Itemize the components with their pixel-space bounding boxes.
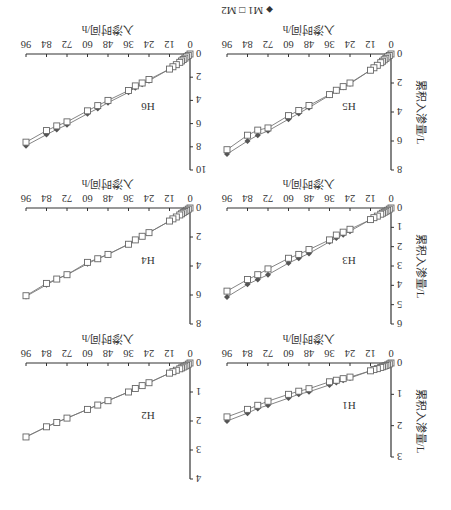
m2-point — [306, 386, 312, 392]
y-tick-label: 1 — [397, 221, 402, 232]
m2-point — [64, 272, 70, 278]
y-tick-label: 2 — [196, 71, 201, 82]
m2-point — [64, 415, 70, 421]
x-tick-label: 60 — [82, 193, 93, 204]
x-tick-label: 84 — [41, 348, 52, 359]
m2-point — [146, 77, 152, 83]
m2-point — [347, 80, 353, 86]
m2-point — [340, 84, 346, 90]
m2-point — [368, 368, 374, 374]
y-tick-label: 0 — [397, 357, 402, 368]
x-tick-label: 0 — [187, 348, 192, 359]
x-tick-label: 96 — [21, 348, 32, 359]
y-tick-label: 6 — [196, 118, 201, 129]
x-tick-label: 84 — [41, 39, 52, 50]
y-tick-label: 5 — [397, 299, 402, 310]
m2-point — [167, 66, 173, 72]
y-tick-label: 2 — [397, 77, 402, 88]
m2-point — [139, 233, 145, 239]
x-tick-label: 84 — [242, 348, 253, 359]
panel-h2: 0122436486072849601234入渗时间/hH2 — [21, 333, 202, 484]
m2-point — [23, 434, 29, 440]
x-tick-label: 12 — [365, 348, 376, 359]
m2-point — [306, 247, 312, 253]
x-tick-label: 0 — [388, 348, 393, 359]
y-tick-label: 3 — [397, 260, 402, 271]
m2-point — [255, 272, 261, 278]
m2-point — [347, 374, 353, 380]
x-tick-label: 24 — [143, 348, 154, 359]
m2-point — [23, 139, 29, 145]
m2-point — [54, 276, 60, 282]
chart-grid: 012243648607284960123入渗时间/h累积入渗量/LH10122… — [0, 0, 451, 510]
m2-point — [296, 388, 302, 394]
y-tick-label: 0 — [196, 202, 201, 213]
x-tick-label: 36 — [324, 193, 335, 204]
m2-point — [105, 398, 111, 404]
m2-point — [132, 83, 138, 89]
m1-point — [224, 294, 230, 300]
m2-point — [54, 123, 60, 129]
x-tick-label: 12 — [164, 39, 175, 50]
m2-point — [224, 147, 230, 153]
m2-point — [286, 391, 292, 397]
m2-point — [146, 380, 152, 386]
y-axis-label: 累积入渗量/L — [415, 80, 428, 145]
m2-marker-icon: □ — [239, 5, 245, 16]
x-axis-label: 入渗时间/h — [282, 178, 335, 191]
x-tick-label: 96 — [222, 39, 233, 50]
m2-point — [85, 259, 91, 265]
m2-point — [347, 226, 353, 232]
x-tick-label: 84 — [41, 193, 52, 204]
panel-h1: 012243648607284960123入渗时间/h累积入渗量/LH1 — [222, 333, 428, 462]
x-tick-label: 36 — [123, 39, 134, 50]
x-axis-label: 入渗时间/h — [282, 333, 335, 346]
m2-point — [44, 424, 50, 430]
m2-point — [296, 251, 302, 257]
m2-point — [85, 108, 91, 114]
x-axis-label: 入渗时间/h — [81, 178, 134, 191]
panel-title: H6 — [141, 101, 155, 113]
x-tick-label: 60 — [82, 348, 93, 359]
x-axis-label: 入渗时间/h — [81, 333, 134, 346]
x-tick-label: 24 — [344, 348, 355, 359]
x-tick-label: 24 — [143, 39, 154, 50]
x-tick-label: 60 — [283, 193, 294, 204]
m2-point — [327, 379, 333, 385]
m2-point — [327, 237, 333, 243]
m2-point — [132, 386, 138, 392]
x-tick-label: 72 — [62, 193, 73, 204]
x-axis-label: 入渗时间/h — [81, 24, 134, 37]
x-tick-label: 60 — [82, 39, 93, 50]
m2-point — [139, 383, 145, 389]
y-tick-label: 6 — [196, 289, 201, 300]
panel-title: H2 — [141, 410, 154, 422]
x-tick-label: 96 — [222, 348, 233, 359]
y-tick-label: 0 — [397, 48, 402, 59]
y-tick-label: 4 — [396, 106, 402, 117]
x-tick-label: 36 — [123, 193, 134, 204]
y-tick-label: 0 — [196, 48, 201, 59]
y-tick-label: 8 — [196, 318, 201, 329]
x-tick-label: 36 — [123, 348, 134, 359]
x-tick-label: 12 — [365, 193, 376, 204]
x-tick-label: 96 — [21, 193, 32, 204]
x-tick-label: 24 — [344, 39, 355, 50]
y-tick-label: 3 — [397, 451, 402, 462]
m2-point — [54, 419, 60, 425]
m2-point — [265, 125, 271, 131]
y-tick-label: 0 — [397, 202, 402, 213]
panel-title: H5 — [342, 101, 356, 113]
m1-marker-icon: ◆ — [266, 5, 273, 15]
x-tick-label: 0 — [187, 39, 192, 50]
m2-point — [105, 97, 111, 103]
x-tick-label: 72 — [263, 39, 274, 50]
m2-point — [255, 127, 261, 133]
y-tick-label: 1 — [196, 386, 201, 397]
y-tick-label: 4 — [195, 94, 201, 105]
m2-point — [224, 288, 230, 294]
m2-point — [95, 103, 101, 109]
panel-title: H4 — [141, 255, 155, 267]
y-tick-label: 0 — [196, 357, 201, 368]
m2-point — [333, 377, 339, 383]
